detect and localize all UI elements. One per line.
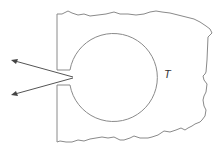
block-outline xyxy=(57,11,212,142)
cavity-diagram xyxy=(0,0,224,152)
arrowhead-upper-icon xyxy=(11,59,18,64)
ray-lower xyxy=(15,78,73,94)
temperature-label: T xyxy=(164,68,171,80)
radiation-rays xyxy=(11,59,73,96)
ray-upper xyxy=(15,61,73,77)
arrowhead-lower-icon xyxy=(11,91,18,96)
cavity xyxy=(70,34,157,122)
